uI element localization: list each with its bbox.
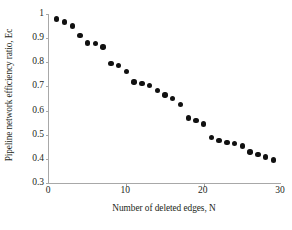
y-axis-tick-label: 0.7 — [32, 82, 44, 92]
data-point — [216, 138, 221, 143]
data-point — [147, 83, 152, 88]
data-point — [62, 19, 67, 24]
x-axis-tick-label: 10 — [121, 186, 131, 196]
y-axis-tick-label: 0.8 — [32, 58, 44, 68]
y-axis-tick-mark — [46, 14, 49, 15]
data-point — [170, 96, 175, 101]
data-point — [85, 40, 90, 45]
data-point — [108, 61, 113, 66]
y-axis-tick-label: 0.3 — [32, 178, 44, 188]
data-point — [77, 33, 82, 38]
data-point — [93, 41, 98, 46]
x-axis-title: Number of deleted edges, N — [40, 203, 288, 213]
data-point — [186, 115, 191, 120]
plot-area — [48, 14, 281, 184]
data-point — [209, 135, 214, 140]
y-axis-tick-labels: 0.30.40.50.60.70.80.91 — [16, 0, 46, 196]
y-axis-tick-label: 0.4 — [32, 154, 44, 164]
x-axis-tick-label: 20 — [198, 186, 208, 196]
y-axis-tick-mark — [46, 111, 49, 112]
data-point — [131, 79, 136, 84]
data-point — [271, 157, 276, 162]
y-axis-tick-label: 0.6 — [32, 106, 44, 116]
data-point — [193, 118, 198, 123]
data-point — [201, 121, 206, 126]
data-point — [224, 140, 229, 145]
y-axis-tick-mark — [46, 86, 49, 87]
data-point — [116, 63, 121, 68]
y-axis-tick-mark — [46, 62, 49, 63]
data-point — [139, 81, 144, 86]
y-axis-tick-mark — [46, 135, 49, 136]
data-point — [255, 152, 260, 157]
data-point — [240, 143, 245, 148]
data-point — [247, 149, 252, 154]
data-point — [263, 154, 268, 159]
data-point — [54, 16, 59, 21]
x-axis-tick-label: 30 — [275, 186, 285, 196]
scatter-chart-figure: Pipeline network efficiency ratio, Ec 0.… — [0, 0, 292, 230]
y-axis-tick-mark — [46, 38, 49, 39]
data-point — [100, 44, 105, 49]
y-axis-tick-label: 0.9 — [32, 33, 44, 43]
y-axis-title-text: Pipeline network efficiency ratio, Ec — [4, 29, 14, 162]
y-axis-tick-label: 1 — [39, 9, 44, 19]
y-axis-tick-mark — [46, 183, 49, 184]
y-axis-tick-mark — [46, 159, 49, 160]
data-point — [162, 92, 167, 97]
data-point — [70, 23, 75, 28]
y-axis-tick-label: 0.5 — [32, 130, 44, 140]
data-point — [124, 69, 129, 74]
x-axis-tick-label: 0 — [46, 186, 51, 196]
data-point — [155, 88, 160, 93]
x-axis-tick-labels: 0102030 — [48, 186, 288, 200]
data-point — [232, 141, 237, 146]
data-point — [178, 102, 183, 107]
